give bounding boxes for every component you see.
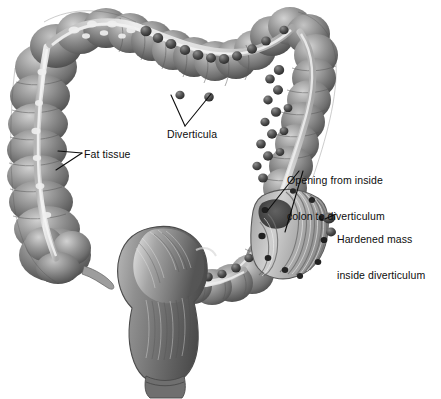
rectum: [118, 226, 216, 398]
label-fat-tissue: Fat tissue: [84, 148, 131, 160]
label-opening-line-1: Opening from inside: [287, 174, 385, 186]
label-diverticula: Diverticula: [167, 128, 217, 140]
label-hardened-mass-line-1: Hardened mass: [337, 233, 425, 245]
anatomical-illustration-figure: Diverticula Fat tissue Opening from insi…: [0, 0, 441, 399]
label-hardened-mass-line-2: inside diverticulum: [337, 269, 425, 281]
label-hardened-mass: Hardened mass inside diverticulum: [337, 209, 425, 305]
